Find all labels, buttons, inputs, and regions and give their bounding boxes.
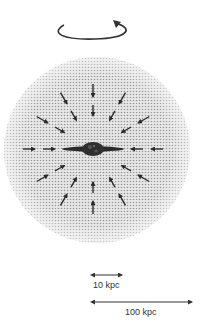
scale-bar-100kpc: 100 kpc	[94, 302, 192, 317]
rotation-arrow-icon	[58, 20, 126, 39]
scale-bar-10kpc: 10 kpc	[93, 275, 122, 290]
scale-label-100kpc: 100 kpc	[125, 307, 157, 317]
scale-label-10kpc: 10 kpc	[93, 280, 120, 290]
galaxy-inflow-diagram: 10 kpc 100 kpc	[0, 0, 209, 333]
